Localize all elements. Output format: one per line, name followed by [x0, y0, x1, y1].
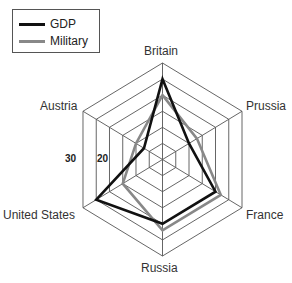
legend: GDP Military — [12, 9, 100, 53]
tick-label-20: 20 — [97, 153, 108, 164]
axis-label-austria: Austria — [40, 99, 77, 113]
axis-label-britain: Britain — [144, 44, 178, 58]
legend-item-gdp: GDP — [19, 17, 76, 31]
axis-label-prussia: Prussia — [246, 99, 286, 113]
axis-label-united-states: United States — [3, 208, 75, 222]
series-military — [123, 95, 221, 230]
gdp-line-swatch-icon — [19, 23, 45, 26]
axis-label-france: France — [246, 208, 283, 222]
legend-item-military: Military — [19, 34, 88, 48]
tick-label-30: 30 — [65, 153, 76, 164]
legend-label-military: Military — [50, 34, 88, 48]
military-line-swatch-icon — [19, 40, 45, 43]
legend-label-gdp: GDP — [50, 17, 76, 31]
axis-label-russia: Russia — [141, 261, 178, 275]
